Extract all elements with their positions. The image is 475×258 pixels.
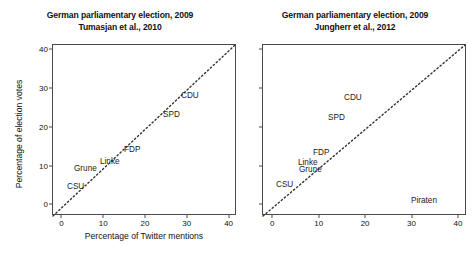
y-tick-label-20: 20 xyxy=(39,122,53,131)
data-label-linke: Linke xyxy=(100,158,120,166)
panel-left-title-line2: Tumasjan et al., 2010 xyxy=(0,22,240,34)
data-label-spd-right: SPD xyxy=(328,114,345,122)
x-tick-label-30-right: 30 xyxy=(407,214,416,228)
x-tick-label-10: 10 xyxy=(99,214,108,228)
panel-right-title-line2: Jungherr et al., 2012 xyxy=(235,22,475,34)
data-label-piraten-right: Piraten xyxy=(411,197,437,205)
x-tick-label-0: 0 xyxy=(59,214,63,228)
plot-area-left: 40 30 20 10 0 0 10 20 30 40 CD xyxy=(52,44,236,215)
data-label-grune: Grune xyxy=(74,165,97,173)
panel-tumasjan: German parliamentary election, 2009 Tuma… xyxy=(0,0,240,258)
x-axis-title-left: Percentage of Twitter mentions xyxy=(52,231,236,241)
panel-left-title: German parliamentary election, 2009 Tuma… xyxy=(0,10,240,33)
data-label-fdp: FDP xyxy=(124,146,140,154)
data-label-csu: CSU xyxy=(67,183,84,191)
panel-left-title-line1: German parliamentary election, 2009 xyxy=(47,10,193,20)
data-label-csu-right: CSU xyxy=(276,181,293,189)
x-tick-label-40-right: 40 xyxy=(453,214,462,228)
x-tick-label-40: 40 xyxy=(224,214,233,228)
x-tick-label-10-right: 10 xyxy=(314,214,323,228)
y-tick-label-30: 30 xyxy=(39,83,53,92)
panel-right-title-line1: German parliamentary election, 2009 xyxy=(282,10,428,20)
x-tick-label-20-right: 20 xyxy=(361,214,370,228)
data-label-cdu-right: CDU xyxy=(344,94,362,102)
y-tick-label-0: 0 xyxy=(44,200,53,209)
x-tick-label-20: 20 xyxy=(141,214,150,228)
x-tick-label-0-right: 0 xyxy=(270,214,274,228)
identity-reference-line-right xyxy=(263,45,467,216)
data-label-cdu: CDU xyxy=(181,92,199,100)
data-label-fdp-right: FDP xyxy=(313,149,329,157)
data-label-grune-right: Grune xyxy=(299,166,322,174)
panel-right-title: German parliamentary election, 2009 Jung… xyxy=(235,10,475,33)
y-tick-label-10: 10 xyxy=(39,161,53,170)
x-tick-label-30: 30 xyxy=(182,214,191,228)
y-axis-title: Percentage of election votes xyxy=(14,49,24,219)
plot-area-right: 0 10 20 30 40 CDU SPD FDP Linke Grune CS… xyxy=(262,44,466,215)
figure-scatter-pair: German parliamentary election, 2009 Tuma… xyxy=(0,0,475,258)
data-label-spd: SPD xyxy=(163,111,180,119)
panel-jungherr: German parliamentary election, 2009 Jung… xyxy=(235,0,475,258)
y-tick-label-40: 40 xyxy=(39,44,53,53)
